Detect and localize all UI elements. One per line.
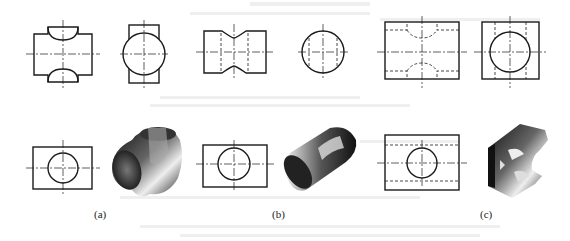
panel-c-bottom-view bbox=[377, 135, 467, 190]
panel-a-front-view bbox=[26, 20, 100, 90]
panel-c-isometric-solid bbox=[488, 124, 548, 198]
panel-c-side-view bbox=[474, 16, 546, 88]
panel-a-isometric-solid bbox=[108, 127, 182, 196]
panel-c-front-view bbox=[377, 16, 467, 88]
panel-a-side-view bbox=[120, 20, 168, 90]
panel-b-bottom-view bbox=[196, 140, 274, 192]
panel-b-side-view bbox=[298, 24, 350, 80]
panel-c-label: (c) bbox=[480, 208, 492, 220]
panel-b-isometric-solid bbox=[278, 127, 356, 194]
panel-a-bottom-view bbox=[26, 140, 100, 196]
panel-b-label: (b) bbox=[272, 208, 285, 220]
technical-drawing bbox=[0, 0, 570, 241]
panel-a-label: (a) bbox=[94, 208, 106, 220]
panel-b-front-view bbox=[196, 24, 273, 80]
